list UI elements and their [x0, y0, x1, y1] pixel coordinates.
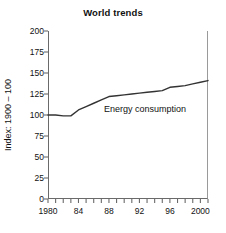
- series-inline-label: Energy consumption: [104, 104, 186, 114]
- x-axis-ticks: [48, 199, 208, 203]
- chart-container: World trends Index: 1900 – 100 200175150…: [0, 0, 226, 233]
- chart-svg-layer: [0, 0, 226, 233]
